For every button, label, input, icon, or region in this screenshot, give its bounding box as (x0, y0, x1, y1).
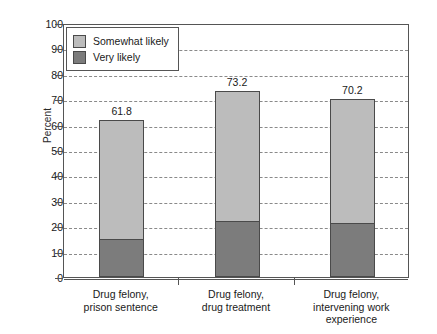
y-tick-mark (55, 278, 63, 279)
x-axis-category-line: intervening work (294, 301, 409, 314)
x-axis-category-line: Drug felony, (63, 288, 178, 301)
y-tick-mark (55, 100, 63, 101)
x-tick-mark (294, 278, 295, 285)
chart-legend: Somewhat likelyVery likely (66, 27, 179, 71)
y-tick-mark (55, 126, 63, 127)
x-axis-category-line: experience (294, 313, 409, 326)
y-tick-mark (55, 49, 63, 50)
bar-value-label: 61.8 (111, 105, 131, 117)
y-tick-mark (55, 24, 63, 25)
legend-item-label: Very likely (93, 51, 140, 63)
y-tick-mark (55, 227, 63, 228)
x-tick-mark (178, 278, 179, 285)
y-tick-mark (55, 151, 63, 152)
y-tick-mark (55, 202, 63, 203)
legend-item[interactable]: Very likely (73, 49, 169, 65)
bar-segment-somewhat-likely[interactable] (99, 120, 144, 239)
bar-stack[interactable]: 73.2 (215, 91, 260, 277)
x-axis-category-line: drug treatment (178, 301, 293, 314)
bar-value-label: 70.2 (342, 84, 362, 96)
x-axis-category-label: Drug felony,drug treatment (178, 288, 293, 313)
bar-segment-somewhat-likely[interactable] (215, 91, 260, 221)
bar-stack[interactable]: 61.8 (99, 120, 144, 277)
y-tick-mark (55, 253, 63, 254)
gridline-0 (64, 279, 408, 280)
legend-swatch-icon (73, 35, 86, 48)
x-axis-category-line: Drug felony, (294, 288, 409, 301)
legend-item[interactable]: Somewhat likely (73, 33, 169, 49)
legend-item-label: Somewhat likely (93, 35, 169, 47)
x-axis-category-label: Drug felony,intervening workexperience (294, 288, 409, 326)
y-tick-mark (55, 75, 63, 76)
legend-swatch-icon (73, 51, 86, 64)
stacked-bar-chart: Percent 0102030405060708090100 61.873.27… (0, 0, 437, 334)
bar-segment-somewhat-likely[interactable] (330, 99, 375, 223)
bar-value-label: 73.2 (227, 76, 247, 88)
y-tick-mark (55, 176, 63, 177)
bar-segment-very-likely[interactable] (330, 223, 375, 277)
x-axis-category-label: Drug felony,prison sentence (63, 288, 178, 313)
x-axis-category-line: prison sentence (63, 301, 178, 314)
bar-stack[interactable]: 70.2 (330, 99, 375, 277)
bar-segment-very-likely[interactable] (99, 239, 144, 277)
bar-segment-very-likely[interactable] (215, 221, 260, 277)
x-axis-category-line: Drug felony, (178, 288, 293, 301)
